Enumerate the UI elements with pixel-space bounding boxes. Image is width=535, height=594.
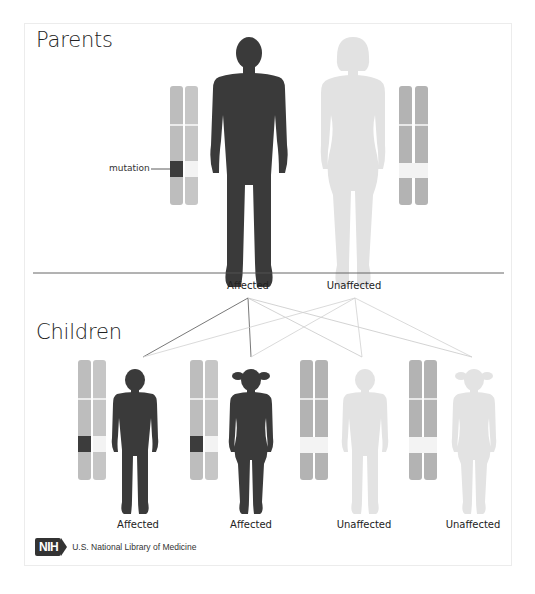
father-figure [210,37,287,287]
child-1-status-label: Affected [117,519,159,530]
child-2-status-label: Affected [230,519,272,530]
child-3-figure [342,369,389,514]
child-4-status-label: Unaffected [446,519,501,530]
father-chromosome-pair [170,86,198,205]
mother-figure [321,37,386,287]
mother-chromosome-pair [399,86,428,205]
inheritance-diagram [0,0,535,594]
mother-status-label: Unaffected [327,280,382,291]
child-3-chromosome-pair [300,360,328,480]
child-4-figure [452,369,497,514]
child-3-status-label: Unaffected [337,519,392,530]
mutation-band [170,161,183,177]
nih-logo-mark: NIH [35,538,61,556]
mutation-label: mutation [109,163,150,173]
child-1-chromosome-pair [78,360,106,480]
child-2-figure [229,369,274,514]
nih-org-name: U.S. National Library of Medicine [72,542,196,552]
child-4-chromosome-pair [409,360,437,480]
father-status-label: Affected [227,280,269,291]
nih-chevron-icon [61,538,67,556]
inheritance-lines [143,298,472,357]
child-2-chromosome-pair [190,360,218,480]
nih-logo: NIH U.S. National Library of Medicine [35,538,196,556]
child-1-figure [112,369,159,514]
